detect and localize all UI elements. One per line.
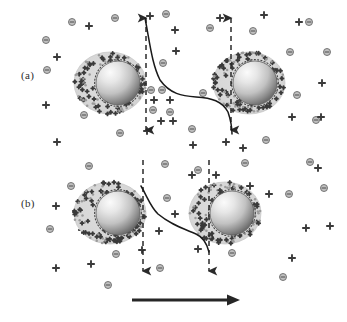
bound-ion-dot [101,242,104,245]
bound-ion-dot [118,110,121,113]
particle-core [96,191,140,235]
bound-ion-dot [253,52,256,55]
bound-ion-dot [233,186,236,189]
negative-ion [164,195,171,202]
negative-ion [286,191,293,198]
bound-ion-dot [232,102,235,105]
positive-ion [319,80,325,86]
negative-ion [112,15,119,22]
bound-ion-dot [205,229,208,232]
particle-core [96,61,140,105]
bound-ion-dot [242,106,245,109]
negative-ion [86,163,93,170]
bound-ion-dot [228,187,231,190]
panel-b [47,159,334,289]
bound-ion-dot [224,91,227,94]
positive-ion [139,247,145,253]
negative-ion [287,49,294,56]
panel-label-a: (a) [21,69,34,81]
bound-ion-dot [131,104,134,107]
positive-ion [223,139,229,145]
bound-ion-dot [265,58,268,61]
particle-core [233,61,277,105]
bound-ion-dot [251,228,254,231]
bound-ion-dot [83,199,86,202]
negative-ion [280,274,287,281]
bound-ion-dot [89,197,92,200]
positive-ion [327,223,333,229]
bound-ion-dot [233,237,236,240]
bound-ion-dot [229,59,232,62]
negative-ion [207,25,214,32]
bound-ion-dot [241,52,244,55]
bound-ion-dot [82,78,85,81]
positive-ion [54,139,60,145]
bound-ion-dot [197,193,200,196]
bound-ion-dot [82,99,85,102]
colloid-double-layer-figure: (a) (b) [0,0,347,322]
bound-ion-dot [144,87,147,90]
positive-ion [54,54,60,60]
bound-ion-dot [81,214,84,217]
bound-ion-dot [209,186,212,189]
bound-ion-dot [92,102,95,105]
bound-ion-dot [138,97,141,100]
positive-ion [43,102,49,108]
negative-ion [44,67,51,74]
negative-ion [189,126,196,133]
negative-ion [163,11,170,18]
bound-ion-dot [253,110,256,113]
direction-arrow-head [227,295,240,306]
figure-canvas [0,0,347,322]
bound-ion-dot [122,110,125,113]
approach-direction-arrow [132,295,240,306]
negative-ion [68,183,75,190]
bound-ion-dot [74,74,77,77]
bound-ion-dot [85,190,88,193]
particle-a-left [73,52,146,115]
negative-ion [167,109,174,116]
positive-ion [86,23,92,29]
negative-ion [160,60,167,67]
positive-ion [240,145,246,151]
negative-ion [195,167,202,174]
negative-ion [150,107,157,114]
negative-ion [324,49,331,56]
bound-ion-dot [74,218,77,221]
positive-ion [315,165,321,171]
negative-ion [229,250,236,257]
positive-ion [151,97,157,103]
negative-ion [159,87,166,94]
negative-ion [250,28,257,35]
negative-ion [162,161,169,168]
bound-ion-dot [84,84,87,87]
bound-ion-dot [232,240,235,243]
bound-ion-dot [259,210,262,213]
positive-ion [88,261,94,267]
bound-ion-dot [254,198,256,201]
positive-ion [195,246,201,252]
bound-ion-dot [233,183,236,186]
negative-ion [43,37,50,44]
bound-ion-dot [213,75,216,78]
bound-ion-dot [218,98,221,101]
particle-b-left [73,181,146,245]
negative-ion [47,226,54,233]
negative-ion [321,185,328,192]
positive-ion [167,97,173,103]
positive-ion [296,19,302,25]
bound-ion-dot [104,239,107,242]
bound-ion-dot [209,188,212,191]
negative-ion [105,282,112,289]
positive-ion [266,191,272,197]
bound-ion-dot [78,219,81,222]
bound-ion-dot [125,107,128,110]
bound-ion-dot [247,106,250,109]
panel-a [43,11,331,152]
negative-ion [294,92,301,99]
bound-ion-dot [140,226,143,229]
negative-ion [306,19,313,26]
negative-ion [148,87,155,94]
bound-ion-dot [194,217,197,220]
negative-ion [263,137,270,144]
